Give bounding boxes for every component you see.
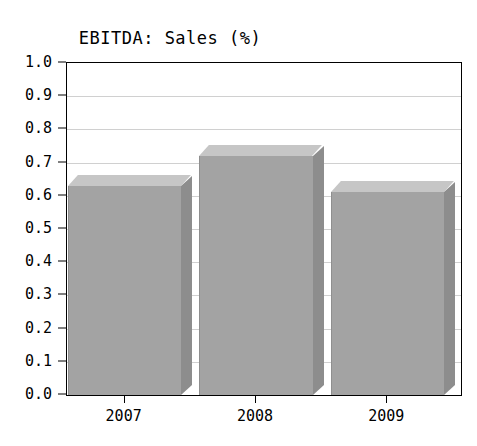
bar-top-face <box>68 175 191 186</box>
x-tick-mark <box>386 395 387 403</box>
x-tick-mark <box>124 395 125 403</box>
y-axis: 1.00.90.80.70.60.50.40.30.20.10.0 <box>0 0 66 446</box>
y-tick-label: 0.6 <box>25 187 52 202</box>
y-tick-mark <box>58 62 66 63</box>
bar-front-face <box>199 156 312 395</box>
y-tick-label: 0.5 <box>25 221 52 236</box>
y-tick-mark <box>58 228 66 229</box>
bar[interactable] <box>331 181 455 395</box>
bar-top-face <box>331 181 454 192</box>
y-tick-mark <box>58 294 66 295</box>
gridline <box>67 129 461 130</box>
y-tick-label: 0.9 <box>25 88 52 103</box>
y-tick-label: 0.1 <box>25 353 52 368</box>
chart-container: EBITDA: Sales (%) 1.00.90.80.70.60.50.40… <box>0 0 477 446</box>
x-tick-label: 2009 <box>368 409 404 424</box>
plot-area <box>66 62 462 396</box>
y-tick-mark <box>58 95 66 96</box>
bar-side-face <box>181 176 192 395</box>
y-tick-label: 0.2 <box>25 320 52 335</box>
x-tick-label: 2007 <box>106 409 142 424</box>
y-tick-label: 0.0 <box>25 387 52 402</box>
y-tick-mark <box>58 394 66 395</box>
bar-side-face <box>444 183 455 395</box>
y-tick-mark <box>58 360 66 361</box>
y-tick-label: 0.4 <box>25 254 52 269</box>
y-tick-mark <box>58 327 66 328</box>
y-tick-mark <box>58 128 66 129</box>
y-tick-mark <box>58 194 66 195</box>
gridline <box>67 96 461 97</box>
bar[interactable] <box>68 175 192 395</box>
bar-front-face <box>68 186 181 395</box>
x-axis: 200720082009 <box>66 395 462 445</box>
x-tick-mark <box>255 395 256 403</box>
y-tick-mark <box>58 161 66 162</box>
y-tick-label: 0.3 <box>25 287 52 302</box>
bar-front-face <box>331 192 444 395</box>
y-tick-mark <box>58 261 66 262</box>
y-tick-label: 0.8 <box>25 121 52 136</box>
bar[interactable] <box>199 145 323 395</box>
bar-side-face <box>313 146 324 395</box>
bar-top-face <box>199 145 322 156</box>
y-tick-label: 0.7 <box>25 154 52 169</box>
x-tick-label: 2008 <box>237 409 273 424</box>
y-tick-label: 1.0 <box>25 55 52 70</box>
